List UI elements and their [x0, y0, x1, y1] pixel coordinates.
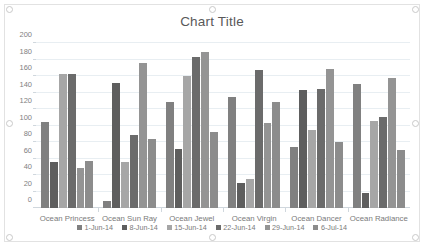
y-axis-tick-label: 160: [19, 63, 32, 72]
bar[interactable]: [299, 90, 307, 208]
bar[interactable]: [103, 201, 111, 208]
chart-legend[interactable]: 1-Jun-148-Jun-1415-Jun-1422-Jun-1429-Jun…: [5, 223, 419, 232]
legend-item[interactable]: 8-Jun-14: [122, 223, 158, 232]
bar[interactable]: [335, 142, 343, 208]
bar[interactable]: [41, 122, 49, 208]
legend-item[interactable]: 1-Jun-14: [77, 223, 113, 232]
x-axis-tick-mark: [223, 208, 224, 212]
bar[interactable]: [201, 52, 209, 208]
resize-handle-middle-right[interactable]: [412, 120, 419, 127]
legend-label: 22-Jun-14: [223, 223, 255, 232]
bar[interactable]: [317, 89, 325, 208]
bar[interactable]: [264, 123, 272, 208]
y-axis-tick-label: 0: [28, 195, 32, 204]
chart-title[interactable]: Chart Title: [5, 14, 419, 29]
bar[interactable]: [353, 84, 361, 208]
bar[interactable]: [246, 179, 254, 208]
y-axis-tick-label: 40: [24, 162, 32, 171]
plot-area[interactable]: 020406080100120140160180200 Ocean Prince…: [36, 43, 410, 208]
bar[interactable]: [255, 70, 263, 208]
bar-group: Ocean Virgin: [223, 43, 285, 208]
legend-swatch-icon: [216, 225, 221, 230]
bar[interactable]: [210, 132, 218, 208]
bar[interactable]: [388, 78, 396, 208]
legend-item[interactable]: 22-Jun-14: [216, 223, 256, 232]
bar[interactable]: [85, 161, 93, 208]
x-axis-category-label: Ocean Virgin: [223, 214, 285, 223]
bar[interactable]: [148, 139, 156, 208]
bar[interactable]: [192, 57, 200, 208]
bar[interactable]: [130, 135, 138, 208]
bar[interactable]: [370, 121, 378, 208]
bar[interactable]: [121, 162, 129, 208]
y-axis-tick-label: 180: [19, 46, 32, 55]
x-axis-category-label: Ocean Radiance: [348, 214, 410, 223]
bar-group: Ocean Radiance: [348, 43, 410, 208]
legend-swatch-icon: [77, 225, 82, 230]
resize-handle-bottom-right[interactable]: [412, 234, 419, 241]
y-axis-tick-label: 100: [19, 112, 32, 121]
bar[interactable]: [50, 162, 58, 208]
legend-label: 6-Jul-14: [321, 223, 347, 232]
chart-object[interactable]: Chart Title 020406080100120140160180200 …: [4, 4, 420, 242]
x-axis-tick-mark: [98, 208, 99, 212]
bar[interactable]: [68, 74, 76, 208]
x-axis-tick-mark: [348, 208, 349, 212]
bar[interactable]: [397, 150, 405, 208]
x-axis-category-label: Ocean Dancer: [285, 214, 347, 223]
y-axis-tick-label: 120: [19, 96, 32, 105]
bar[interactable]: [166, 102, 174, 208]
x-axis-tick-mark: [161, 208, 162, 212]
y-axis-tick-label: 200: [19, 30, 32, 39]
bar[interactable]: [112, 83, 120, 208]
legend-label: 29-Jun-14: [272, 223, 304, 232]
bar-series-container: Ocean PrincessOcean Sun RayOcean JewelOc…: [36, 43, 410, 208]
bar-group: Ocean Sun Ray: [98, 43, 160, 208]
bar[interactable]: [379, 117, 387, 208]
legend-label: 1-Jun-14: [85, 223, 113, 232]
resize-handle-top-center[interactable]: [209, 6, 216, 13]
bar-group: Ocean Jewel: [161, 43, 223, 208]
legend-swatch-icon: [313, 225, 318, 230]
bar[interactable]: [308, 130, 316, 208]
legend-swatch-icon: [265, 225, 270, 230]
bar[interactable]: [237, 183, 245, 208]
resize-handle-bottom-left[interactable]: [6, 234, 13, 241]
resize-handle-top-right[interactable]: [412, 6, 419, 13]
bar[interactable]: [362, 193, 370, 208]
legend-item[interactable]: 15-Jun-14: [167, 223, 207, 232]
resize-handle-middle-left[interactable]: [6, 120, 13, 127]
y-axis-tick-label: 140: [19, 79, 32, 88]
bar[interactable]: [77, 168, 85, 208]
legend-item[interactable]: 6-Jul-14: [313, 223, 346, 232]
bar[interactable]: [228, 97, 236, 208]
bar[interactable]: [183, 76, 191, 208]
y-axis-tick-label: 80: [24, 129, 32, 138]
legend-label: 8-Jun-14: [129, 223, 157, 232]
x-axis-tick-mark: [285, 208, 286, 212]
y-axis-tick-label: 20: [24, 178, 32, 187]
x-axis-category-label: Ocean Sun Ray: [98, 214, 160, 223]
bar[interactable]: [59, 74, 67, 208]
bar-group: Ocean Princess: [36, 43, 98, 208]
bar[interactable]: [272, 102, 280, 208]
bar-group: Ocean Dancer: [285, 43, 347, 208]
y-axis-tick-label: 60: [24, 145, 32, 154]
resize-handle-bottom-center[interactable]: [209, 234, 216, 241]
resize-handle-top-left[interactable]: [6, 6, 13, 13]
x-axis-category-label: Ocean Princess: [36, 214, 98, 223]
bar[interactable]: [326, 69, 334, 208]
legend-item[interactable]: 29-Jun-14: [265, 223, 305, 232]
bar[interactable]: [175, 149, 183, 208]
legend-label: 15-Jun-14: [174, 223, 206, 232]
bar[interactable]: [139, 63, 147, 208]
x-axis-category-label: Ocean Jewel: [161, 214, 223, 223]
legend-swatch-icon: [167, 225, 172, 230]
bar[interactable]: [290, 147, 298, 208]
legend-swatch-icon: [122, 225, 127, 230]
